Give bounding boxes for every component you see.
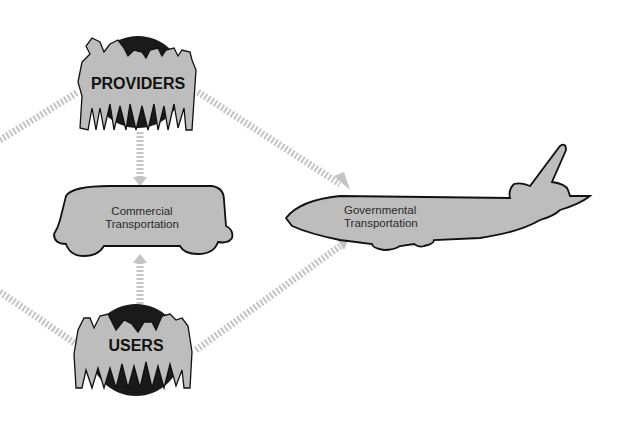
- providers-label: PROVIDERS: [84, 75, 192, 93]
- airplane-icon: [286, 145, 590, 250]
- arrow-users-to-commercial: [133, 254, 147, 306]
- governmental-label-line1: Governmental: [344, 204, 440, 217]
- governmental-transportation-label: Governmental Transportation: [344, 204, 440, 230]
- arrow-providers-to-commercial: [133, 132, 147, 186]
- connector-users-left: [0, 292, 76, 344]
- arrow-users-to-government: [196, 236, 350, 350]
- arrow-providers-to-government: [198, 92, 350, 190]
- connector-providers-left: [0, 92, 78, 140]
- governmental-label-line2: Transportation: [344, 217, 440, 230]
- governmental-transportation-node: [286, 145, 590, 250]
- commercial-label-line1: Commercial: [80, 205, 204, 218]
- users-label: USERS: [90, 337, 182, 355]
- commercial-transportation-label: Commercial Transportation: [80, 205, 204, 231]
- commercial-label-line2: Transportation: [80, 218, 204, 231]
